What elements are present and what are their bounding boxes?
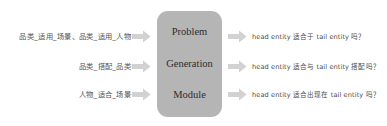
right-arrow-icon [132,88,151,101]
output-column: head entity 适合于 tail entity 吗？ head enti… [252,0,387,126]
module-line: Problem [172,27,208,38]
right-arrow-icon [132,60,151,73]
right-arrow-icon [132,30,151,43]
right-arrow-icon [228,88,247,101]
input-text: 品类_适用_场景、品类_适用_人物 [19,33,131,40]
output-text: head entity 适合出现在 tail entity 吗？ [252,92,380,99]
output-text: head entity 适合与 tail entity 搭配吗？ [252,64,380,71]
right-arrow-icon [228,30,247,43]
module-line: Module [173,90,206,101]
problem-generation-module-box: Problem Generation Module [157,11,222,117]
input-row: 人物_适合_场景 [79,87,131,103]
input-column: 品类_适用_场景、品类_适用_人物 品类_搭配_品类 人物_适合_场景 [0,0,131,126]
output-row: head entity 适合于 tail entity 吗？ [252,29,366,45]
output-row: head entity 适合出现在 tail entity 吗？ [252,87,380,103]
input-row: 品类_搭配_品类 [79,59,131,75]
input-text: 人物_适合_场景 [79,91,131,98]
module-line: Generation [166,59,213,70]
output-text: head entity 适合于 tail entity 吗？ [252,34,366,41]
input-text: 品类_搭配_品类 [79,63,131,70]
output-row: head entity 适合与 tail entity 搭配吗？ [252,59,380,75]
problem-generation-diagram: 品类_适用_场景、品类_适用_人物 品类_搭配_品类 人物_适合_场景 Prob… [0,0,387,126]
input-row: 品类_适用_场景、品类_适用_人物 [19,29,131,45]
right-arrow-icon [228,60,247,73]
